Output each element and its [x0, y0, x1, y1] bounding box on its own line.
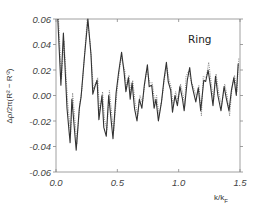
x-tick-label: 0.0: [49, 177, 63, 188]
y-tick-label: -0.04: [29, 141, 51, 152]
x-tick-label: 1.5: [233, 177, 247, 188]
plot-frame: [56, 19, 240, 172]
x-axis-subscript: F: [224, 198, 228, 204]
chart: -0.06-0.04-0.020.000.020.040.060.00.51.0…: [0, 0, 259, 218]
data-series: [58, 19, 239, 150]
y-tick-label: 0.04: [33, 39, 52, 50]
x-tick-label: 1.0: [172, 177, 186, 188]
y-tick-label: 0.02: [33, 65, 52, 76]
y-tick-label: 0.00: [33, 90, 52, 101]
x-axis-title: k/kF: [214, 193, 228, 204]
tick-labels: -0.06-0.04-0.020.000.020.040.060.00.51.0…: [29, 14, 247, 189]
x-tick-label: 0.5: [111, 177, 125, 188]
y-tick-label: -0.02: [29, 116, 51, 127]
y-tick-label: 0.06: [33, 14, 52, 25]
y-axis-title: Δρ/2π(R² − R'²): [5, 68, 14, 123]
ring-annotation: Ring: [188, 33, 212, 45]
y-tick-label: -0.06: [29, 167, 51, 178]
